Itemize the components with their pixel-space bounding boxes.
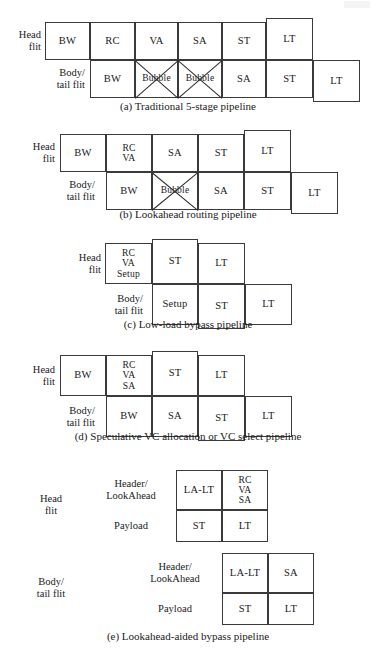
panel-a-row-body-label: Body/ tail flit	[24, 60, 88, 98]
panel-e-group-body-label: Body/ tail flit	[18, 553, 84, 623]
panel-b-stage-bw-0: BW	[60, 134, 106, 172]
panel-e-group-0-stage-lt-1: LT	[222, 510, 268, 542]
panel-b-row-head-label: Head flit	[8, 134, 58, 172]
panel-d-caption: (d) Speculative VC allocation or VC sele…	[0, 430, 376, 442]
panel-e-group-1-stage-st-0: ST	[222, 593, 268, 625]
panel-e-group-0-sublabel-1: Payload	[88, 510, 174, 542]
panel-a-stage-bubble-1: Bubble	[135, 60, 178, 98]
panel-a-stage-sa-3: SA	[222, 60, 266, 98]
panel-b-stage-bw-0: BW	[106, 172, 152, 210]
panel-e-group-1-sublabel-1: Payload	[132, 593, 218, 625]
panel-d-stage-st-2: ST	[152, 351, 198, 396]
panel-d-row-head-label: Head flit	[8, 355, 58, 396]
panel-d-stage-bw-0: BW	[60, 355, 106, 396]
panel-a-caption: (a) Traditional 5-stage pipeline	[0, 100, 376, 112]
page-header-artifact	[344, 1, 370, 8]
panel-e-group-1-sublabel-0: Header/ LookAhead	[132, 553, 218, 593]
panel-a-stage-rc-1: RC	[90, 22, 135, 60]
panel-a-stage-bw-0: BW	[90, 60, 135, 98]
panel-e-caption: (e) Lookahead-aided bypass pipeline	[0, 630, 376, 642]
panel-d-stage-rc-va-sa-1: RC VA SA	[106, 355, 152, 396]
panel-e-group-0-sublabel-0: Header/ LookAhead	[88, 470, 174, 510]
panel-e-group-head-label: Head flit	[18, 470, 84, 540]
panel-c-stage-lt-2: LT	[198, 243, 245, 284]
panel-b-stage-sa-2: SA	[198, 172, 244, 210]
panel-b-caption: (b) Lookahead routing pipeline	[0, 208, 376, 220]
panel-e-group-0-stage-rc-va-sa-1: RC VA SA	[222, 470, 268, 510]
panel-b-stage-lt-4: LT	[244, 130, 291, 172]
panel-a-stage-sa-3: SA	[178, 22, 222, 60]
panel-a-stage-va-2: VA	[135, 22, 178, 60]
panel-a-stage-lt-5: LT	[266, 18, 313, 60]
panel-a-row-head-label: Head flit	[2, 22, 44, 60]
panel-b-stage-bubble-1: Bubble	[152, 172, 198, 210]
panel-a-stage-st-4: ST	[222, 22, 266, 60]
panel-d-stage-lt-3: LT	[198, 355, 245, 396]
panel-e-group-1-stage-lt-1: LT	[268, 593, 314, 625]
panel-b-stage-st-3: ST	[198, 134, 244, 172]
panel-e-group-0-stage-la-lt-0: LA-LT	[176, 470, 222, 510]
panel-c-stage-st-1: ST	[152, 239, 198, 284]
pipeline-figure: Head flitBWRCVASASTLTBody/ tail flitBWBu…	[0, 0, 376, 649]
panel-a-stage-bubble-2: Bubble	[178, 60, 222, 98]
panel-a-stage-st-4: ST	[266, 60, 313, 98]
panel-b-stage-sa-2: SA	[152, 134, 198, 172]
panel-a-stage-bw-0: BW	[45, 22, 90, 60]
panel-e-group-1-stage-sa-1: SA	[268, 553, 314, 593]
panel-c-stage-rc-va-setup-0: RC VA Setup	[105, 243, 152, 284]
panel-a-stage-lt-5: LT	[313, 60, 360, 102]
panel-b-stage-rc-va-1: RC VA	[106, 134, 152, 172]
panel-e-group-0-stage-st-0: ST	[176, 510, 222, 542]
panel-e-group-1-stage-la-lt-0: LA-LT	[222, 553, 268, 593]
panel-b-row-body-label: Body/ tail flit	[32, 172, 98, 210]
panel-b-stage-st-3: ST	[244, 172, 291, 210]
panel-c-row-head-label: Head flit	[48, 243, 104, 284]
panel-c-caption: (c) Low-load bypass pipeline	[0, 318, 376, 330]
